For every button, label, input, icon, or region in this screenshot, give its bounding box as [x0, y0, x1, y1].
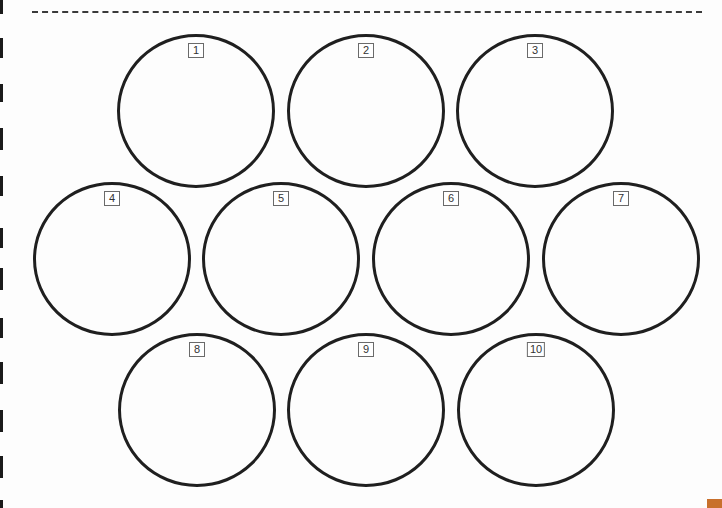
- margin-mark: [0, 362, 3, 384]
- margin-mark: [0, 228, 3, 248]
- circle-number-label: 2: [358, 43, 374, 58]
- circle-number-label: 8: [189, 342, 205, 357]
- circle-number-label: 5: [273, 191, 289, 206]
- margin-mark: [0, 128, 3, 150]
- circle-7[interactable]: 7: [542, 182, 700, 336]
- margin-mark: [0, 500, 3, 508]
- circle-8[interactable]: 8: [118, 333, 276, 487]
- circle-1[interactable]: 1: [117, 34, 275, 188]
- margin-mark: [0, 84, 3, 102]
- circle-number-label: 4: [104, 191, 120, 206]
- circle-number-label: 10: [527, 342, 545, 357]
- circle-number-label: 7: [613, 191, 629, 206]
- circle-5[interactable]: 5: [202, 182, 360, 336]
- circle-10[interactable]: 10: [457, 333, 615, 487]
- margin-mark: [0, 38, 3, 58]
- circle-number-label: 6: [443, 191, 459, 206]
- corner-color-tab: [707, 499, 722, 508]
- circle-2[interactable]: 2: [287, 34, 445, 188]
- circle-6[interactable]: 6: [372, 182, 530, 336]
- margin-mark: [0, 456, 3, 478]
- circle-3[interactable]: 3: [456, 34, 614, 188]
- dashed-cut-line: [32, 11, 702, 13]
- margin-mark: [0, 410, 3, 432]
- circle-4[interactable]: 4: [33, 182, 191, 336]
- circle-number-label: 3: [527, 43, 543, 58]
- margin-mark: [0, 318, 3, 338]
- margin-mark: [0, 176, 3, 196]
- circle-number-label: 9: [358, 342, 374, 357]
- circle-number-label: 1: [188, 43, 204, 58]
- circle-9[interactable]: 9: [287, 333, 445, 487]
- margin-mark: [0, 268, 3, 290]
- printable-sheet: 1 2 3 4 5 6 7 8 9 10: [0, 0, 722, 508]
- margin-mark: [0, 0, 3, 14]
